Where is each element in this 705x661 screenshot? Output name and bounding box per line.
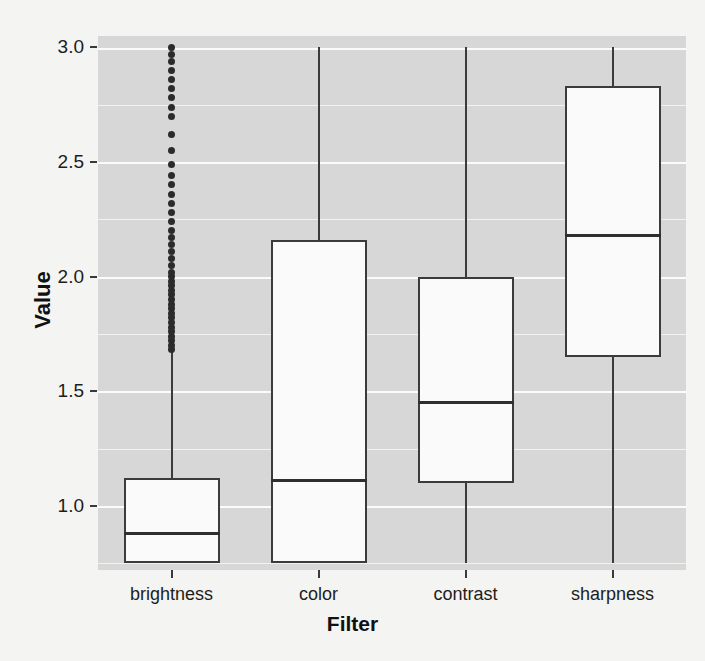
box-plot-brightness[interactable] <box>98 36 245 570</box>
outlier-point <box>168 200 175 207</box>
outlier-point <box>168 269 175 276</box>
box-iqr <box>565 86 661 356</box>
outlier-point <box>168 161 175 168</box>
outlier-point <box>168 104 175 111</box>
y-tick-mark <box>90 161 97 163</box>
median-line <box>418 401 514 404</box>
outlier-point <box>168 218 175 225</box>
y-tick-mark <box>90 46 97 48</box>
x-tick-label-color: color <box>299 584 338 605</box>
box-iqr <box>271 240 367 563</box>
box-plot-sharpness[interactable] <box>539 36 686 570</box>
y-tick-mark <box>90 276 97 278</box>
x-tick-label-contrast: contrast <box>433 584 497 605</box>
plot-panel <box>98 36 686 570</box>
x-tick-label-brightness: brightness <box>130 584 213 605</box>
outlier-point <box>168 51 175 58</box>
x-tick-mark <box>612 570 614 578</box>
outlier-point <box>168 262 175 269</box>
outlier-point <box>168 131 175 138</box>
outlier-point <box>168 227 175 234</box>
outlier-point <box>168 172 175 179</box>
box-plot-figure: 1.01.52.02.53.0 Value brightnesscolorcon… <box>0 0 705 661</box>
box-plot-color[interactable] <box>245 36 392 570</box>
y-tick-label: 2.0 <box>58 266 84 288</box>
y-tick-label: 2.5 <box>58 151 84 173</box>
outlier-point <box>168 85 175 92</box>
whisker-upper <box>318 47 320 240</box>
x-tick-mark <box>318 570 320 578</box>
outlier-point <box>168 94 175 101</box>
x-axis-title: Filter <box>0 612 705 636</box>
whisker-lower <box>612 357 614 563</box>
y-axis-title: Value <box>30 271 56 328</box>
median-line <box>124 532 220 535</box>
y-tick-label: 1.5 <box>58 380 84 402</box>
x-tick-mark <box>465 570 467 578</box>
outlier-point <box>168 67 175 74</box>
outlier-point <box>168 191 175 198</box>
y-tick-label: 1.0 <box>58 495 84 517</box>
box-iqr <box>418 277 514 483</box>
whisker-upper <box>465 47 467 276</box>
x-tick-label-sharpness: sharpness <box>571 584 654 605</box>
whisker-upper <box>612 47 614 86</box>
y-tick-label: 3.0 <box>58 36 84 58</box>
x-tick-mark <box>171 570 173 578</box>
outlier-point <box>168 76 175 83</box>
outlier-point <box>168 181 175 188</box>
outlier-point <box>168 44 175 51</box>
whisker-lower <box>465 483 467 563</box>
outlier-point <box>168 209 175 216</box>
whisker-upper <box>171 352 173 478</box>
outlier-point <box>168 147 175 154</box>
median-line <box>565 234 661 237</box>
box-plot-contrast[interactable] <box>392 36 539 570</box>
outlier-point <box>168 255 175 262</box>
y-tick-mark <box>90 505 97 507</box>
box-iqr <box>124 478 220 563</box>
y-tick-mark <box>90 390 97 392</box>
median-line <box>271 479 367 482</box>
outlier-point <box>168 113 175 120</box>
outlier-point <box>168 248 175 255</box>
outlier-point <box>168 234 175 241</box>
outlier-point <box>168 58 175 65</box>
outlier-point <box>168 241 175 248</box>
